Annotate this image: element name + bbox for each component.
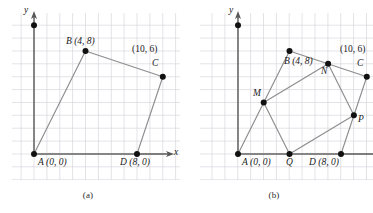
label-C-text-panel-a: C: [152, 58, 158, 68]
label-C-text-panel-b: C: [357, 58, 363, 68]
label-point-Q-panel-b: Q: [286, 157, 293, 167]
point-P-panel-b: [351, 112, 357, 118]
point-A-panel-a: [31, 151, 37, 157]
point-C-panel-a: [160, 74, 166, 80]
label-A-text-panel-a: A (0, 0): [38, 157, 67, 167]
label-D-text-panel-b: D (8, 0): [309, 157, 339, 167]
caption-panel-a: (a): [58, 190, 118, 200]
y-axis-label-text-panel-a: y: [24, 5, 28, 15]
label-point-C-panel-a: C: [152, 58, 158, 68]
label-B-text-panel-a: B (4, 8): [66, 36, 95, 46]
grid-lines-panel-b: [199, 13, 373, 180]
label-C-coord-text-panel-b: (10, 6): [340, 44, 365, 54]
label-M-text-panel-b: M: [253, 88, 261, 98]
label-x-axis-panel-a: x: [174, 147, 178, 157]
label-A-text-panel-b: A (0, 0): [242, 157, 271, 167]
y-axis-label-text-panel-b: y: [229, 5, 233, 15]
point-y-axis-top-panel-a: [31, 22, 37, 28]
label-B-text-panel-b: B (4, 8): [284, 56, 313, 66]
figure-root: A (0, 0) B (4, 8) (10, 6) C D (8, 0) y x: [0, 0, 373, 213]
label-Q-text-panel-b: Q: [286, 157, 293, 167]
label-point-C-panel-b: C: [357, 58, 363, 68]
label-point-M-panel-b: M: [253, 88, 261, 98]
label-C-coord-text-panel-a: (10, 6): [132, 44, 157, 54]
point-B-panel-a: [83, 48, 89, 54]
label-point-D-panel-a: D (8, 0): [120, 157, 150, 167]
point-A-panel-b: [235, 151, 241, 157]
point-B-panel-b: [287, 48, 293, 54]
label-P-text-panel-b: P: [358, 114, 364, 124]
label-point-C-coord-panel-b: (10, 6): [340, 44, 365, 54]
label-point-C-coord-panel-a: (10, 6): [132, 44, 157, 54]
panel-a-plot: [0, 0, 186, 190]
axes-panel-b: [238, 15, 373, 154]
label-point-A-panel-a: A (0, 0): [38, 157, 67, 167]
point-y-axis-top-panel-b: [235, 22, 241, 28]
label-point-P-panel-b: P: [358, 114, 364, 124]
caption-panel-b: (b): [244, 190, 304, 200]
label-point-B-panel-a: B (4, 8): [66, 36, 95, 46]
x-axis-label-text-panel-a: x: [174, 147, 178, 157]
point-C-panel-b: [364, 74, 370, 80]
label-D-text-panel-a: D (8, 0): [120, 157, 150, 167]
caption-b-text: (b): [268, 190, 279, 200]
label-point-N-panel-b: N: [321, 66, 327, 76]
label-point-B-panel-b: B (4, 8): [284, 56, 313, 66]
point-M-panel-b: [261, 100, 267, 106]
label-point-D-panel-b: D (8, 0): [309, 157, 339, 167]
label-point-A-panel-b: A (0, 0): [242, 157, 271, 167]
caption-a-text: (a): [83, 190, 94, 200]
panel-b-plot: [186, 0, 373, 190]
label-N-text-panel-b: N: [321, 66, 327, 76]
label-y-axis-panel-b: y: [229, 5, 233, 15]
label-y-axis-panel-a: y: [24, 5, 28, 15]
